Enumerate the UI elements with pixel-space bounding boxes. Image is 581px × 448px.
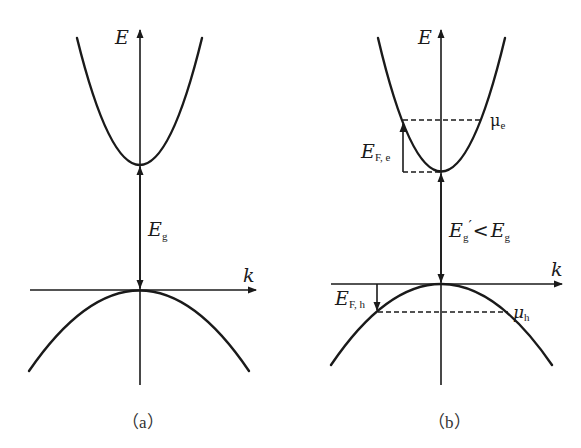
- k-axis-label-a: k: [243, 264, 255, 286]
- panel-a: E k Eg （a）: [29, 26, 256, 432]
- gap-comparison-label: Eg′<Eg: [448, 217, 511, 243]
- panel-b: E k μe EF, e Eg′<Eg EF, h μh （b）: [331, 26, 563, 432]
- valence-band-a: [29, 291, 249, 372]
- k-axis-label-b: k: [551, 258, 563, 280]
- hole-fermi-label: EF, h: [334, 287, 366, 310]
- hole-chem-potential-label: μh: [513, 302, 530, 323]
- electron-fermi-label: EF, e: [360, 140, 391, 163]
- caption-b: （b）: [428, 413, 471, 432]
- gap-label-a: Eg: [147, 218, 168, 242]
- energy-axis-label-b: E: [417, 26, 432, 48]
- energy-axis-label-a: E: [114, 26, 129, 48]
- electron-chem-potential-label: μe: [490, 111, 505, 131]
- caption-a: （a）: [122, 413, 164, 432]
- band-diagram: E k Eg （a） E k μe EF: [0, 0, 581, 448]
